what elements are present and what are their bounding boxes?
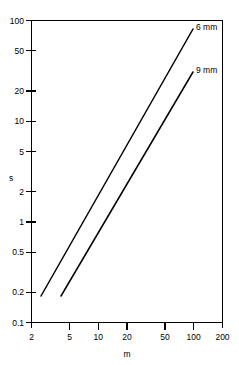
- x-tick-label-200: 200: [215, 332, 229, 342]
- x-axis-title: m: [123, 349, 130, 359]
- y-tick-label-50: 50: [15, 46, 25, 56]
- x-axis-ticks: [32, 323, 223, 331]
- series-line-6mm: [41, 29, 193, 296]
- y-tick-label-0.2: 0.2: [12, 287, 24, 297]
- chart-container: 100 50 20 10 5 2 1 0.5 0.2 0.1 2 5 10 20…: [0, 0, 239, 365]
- x-tick-label-10: 10: [93, 332, 103, 342]
- y-tick-label-10: 10: [15, 116, 25, 126]
- y-tick-label-0.5: 0.5: [12, 247, 24, 257]
- y-axis-title: s: [9, 173, 13, 183]
- x-tick-label-20: 20: [122, 332, 132, 342]
- x-tick-label-50: 50: [160, 332, 170, 342]
- series-line-9mm: [61, 72, 193, 296]
- x-tick-label-2: 2: [29, 332, 34, 342]
- plot-frame: [32, 21, 223, 323]
- y-tick-label-1: 1: [19, 217, 24, 227]
- data-series-group: [41, 29, 193, 296]
- y-axis-tick-labels: 100 50 20 10 5 2 1 0.5 0.2 0.1: [10, 16, 24, 328]
- series-label-6mm: 6 mm: [196, 22, 217, 32]
- y-tick-label-0.1: 0.1: [12, 318, 24, 328]
- chart-plot: 100 50 20 10 5 2 1 0.5 0.2 0.1 2 5 10 20…: [0, 0, 239, 365]
- y-tick-label-5: 5: [19, 147, 24, 157]
- y-tick-label-20: 20: [15, 86, 25, 96]
- y-tick-label-2: 2: [19, 187, 24, 197]
- x-axis-tick-labels: 2 5 10 20 50 100 200: [29, 332, 230, 342]
- series-label-9mm: 9 mm: [196, 65, 217, 75]
- x-tick-label-100: 100: [187, 332, 201, 342]
- x-tick-label-5: 5: [67, 332, 72, 342]
- y-tick-label-100: 100: [10, 16, 24, 26]
